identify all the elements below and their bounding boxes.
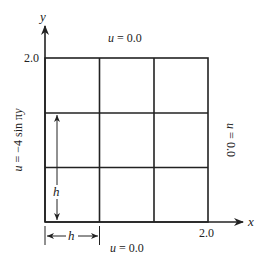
- y-max-tick: 2.0: [24, 51, 39, 65]
- x-axis-label: x: [247, 214, 254, 229]
- bc-right: u = 0.0: [224, 123, 238, 157]
- h-horizontal-label: h: [68, 228, 75, 243]
- bc-top: u = 0.0: [108, 31, 142, 45]
- h-vertical-label: h: [53, 184, 60, 199]
- x-max-tick: 2.0: [199, 226, 214, 240]
- grid-boundary: [45, 58, 208, 222]
- grid-diagram: y x 2.0 2.0 u = 0.0 u = 0.0 u = 0.0 u = …: [0, 0, 266, 268]
- bc-left: u = −4 sin πy: [11, 108, 25, 172]
- bc-bottom: u = 0.0: [110, 241, 144, 255]
- y-axis-label: y: [38, 9, 46, 24]
